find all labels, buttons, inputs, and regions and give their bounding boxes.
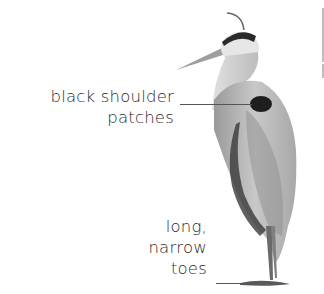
label-line: black shoulder [51,86,174,107]
label-long-narrow-toes: long, narrow toes [148,216,207,279]
beak [176,48,226,70]
shoulder-patch [250,96,272,112]
label-line: toes [148,258,207,279]
label-line: long, [148,216,207,237]
leader-line-toes [216,283,256,284]
label-line: patches [51,107,174,128]
leader-line-shoulder [180,104,252,105]
label-black-shoulder-patches: black shoulder patches [51,86,174,128]
label-line: narrow [148,237,207,258]
plume [227,13,244,30]
